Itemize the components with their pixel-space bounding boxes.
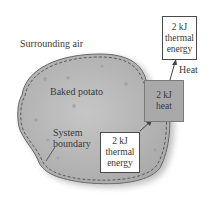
box-line: 2 kJ (172, 22, 188, 33)
box-line: thermal (105, 147, 134, 158)
system-boundary-label: System boundary (53, 127, 91, 149)
outside-thermal-energy-box: 2 kJ thermal energy (162, 16, 197, 60)
box-line: heat (156, 101, 172, 112)
boundary-label-line1: System (53, 127, 91, 138)
baked-potato-label: Baked potato (50, 86, 103, 97)
inside-thermal-energy-box: 2 kJ thermal energy (100, 132, 140, 173)
boundary-label-line2: boundary (53, 138, 91, 149)
box-line: 2 kJ (112, 136, 128, 147)
heat-label: Heat (179, 64, 198, 75)
box-line: energy (167, 44, 193, 55)
box-line: energy (107, 158, 133, 169)
box-line: 2 kJ (156, 90, 172, 101)
heat-transfer-box: 2 kJ heat (144, 80, 184, 122)
surrounding-air-label: Surrounding air (20, 38, 83, 49)
box-line: thermal (165, 33, 194, 44)
